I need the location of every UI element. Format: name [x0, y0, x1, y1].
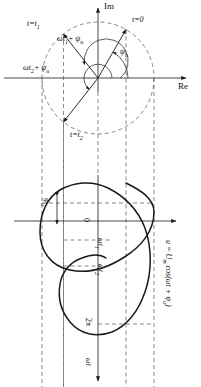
figure-svg	[0, 0, 201, 387]
waveform-function-label-tail: cos(ωt + ψ	[164, 266, 173, 302]
angle-label-omega-t2-text: ωt	[23, 63, 31, 72]
waveform-tick-omega-t1-sub: 1	[94, 246, 100, 249]
waveform-phase-label-psi-u: ψu	[40, 198, 50, 206]
waveform-tick-omega-t2-sub: 2	[94, 272, 100, 275]
waveform-tick-omega-t2-text: ωt	[96, 264, 105, 272]
phasor-label-t2: t=t2	[70, 131, 83, 141]
angle-label-psi-u: ψu	[120, 48, 128, 58]
waveform-tick-two-pi: 2π	[84, 318, 92, 326]
angle-label-omega-t1-tail-sub: u	[80, 39, 83, 45]
waveform-origin-label: 0	[82, 218, 90, 222]
arc-omega-t1	[84, 39, 128, 78]
angle-label-omega-t1-text: ωt	[57, 34, 65, 43]
phasor-label-t1-text: t=t	[27, 19, 37, 28]
phasor-label-t2-sub: 2	[80, 135, 83, 141]
axis-label-re: Re	[178, 82, 188, 91]
phasor-label-t0: t=0	[132, 16, 144, 24]
waveform-axis-label-omega-t: ωt	[84, 358, 92, 366]
phasor-arrow-t2	[64, 78, 99, 122]
waveform-tick-omega-t2: ωt2	[94, 264, 104, 275]
angle-label-omega-t1-tail: + ψ	[68, 34, 80, 43]
waveform-phase-label-psi-u-sub: u	[40, 203, 46, 206]
angle-label-omega-t2-tail: + ψ	[34, 63, 46, 72]
phasor-label-t1: t=t1	[27, 20, 40, 30]
angle-label-omega-t1: ωt1+ ψu	[57, 35, 83, 45]
figure-root: Im Re t=0 t=t1 t=t2 ψu ωt1+ ψu ωt2+ ψu 0…	[0, 0, 201, 387]
waveform-function-label: u = Um cos(ωt + ψu)	[162, 240, 172, 307]
waveform-tick-omega-t1: ωt1	[94, 238, 104, 249]
angle-label-psi-u-sub: u	[125, 52, 128, 58]
waveform-group	[14, 175, 176, 381]
waveform-function-label-close: )	[164, 304, 173, 307]
phasor-label-t1-sub: 1	[37, 24, 40, 30]
axis-label-im: Im	[104, 2, 114, 11]
waveform-function-label-head: u = U	[164, 240, 173, 259]
angle-label-omega-t2: ωt2+ ψu	[23, 64, 49, 74]
phasor-label-t2-text: t=t	[70, 130, 80, 139]
angle-label-omega-t2-tail-sub: u	[46, 68, 49, 74]
waveform-function-label-sub: m	[162, 259, 168, 263]
waveform-tick-omega-t1-text: ωt	[96, 238, 105, 246]
